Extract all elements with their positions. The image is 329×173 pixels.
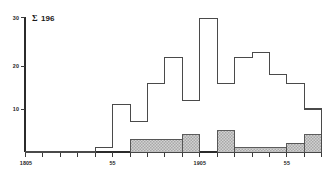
shaded-bar	[304, 135, 321, 152]
y-tick-label-30: 30	[13, 15, 19, 21]
step-outline-series	[25, 19, 322, 152]
x-tick-label-1805: 1805	[20, 160, 32, 166]
legend: Σ 196	[32, 13, 55, 23]
y-tick-label-10: 10	[13, 106, 19, 112]
shaded-bar	[130, 139, 182, 152]
chart-canvas: 30 20 10	[0, 0, 329, 173]
shaded-bar	[182, 135, 199, 152]
x-tick-label-1855: 55	[109, 160, 115, 166]
x-tick-label-1955: 55	[284, 160, 290, 166]
shaded-bar	[217, 131, 234, 153]
histogram-figure: 30 20 10	[0, 0, 329, 173]
x-tick-label-1905: 1905	[194, 160, 206, 166]
plot-area: 30 20 10	[13, 13, 322, 166]
y-tick-label-20: 20	[13, 63, 19, 69]
x-axis: 1805 55 1905 55	[20, 152, 322, 166]
shaded-bar	[235, 148, 287, 152]
legend-total-value: 196	[41, 14, 55, 23]
y-axis: 30 20 10	[13, 15, 25, 152]
sigma-icon: Σ	[32, 13, 38, 23]
shaded-bars-series	[130, 131, 321, 153]
step-line	[25, 19, 322, 152]
shaded-bar	[287, 143, 305, 152]
